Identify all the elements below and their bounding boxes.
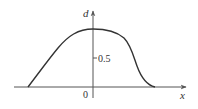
x-axis-label: x [179, 89, 185, 101]
origin-label: 0 [83, 89, 88, 100]
diagram: d x 0 0.5 [0, 0, 198, 109]
y-tick-label-0-5: 0.5 [98, 53, 111, 64]
y-axis-label: d [83, 7, 89, 19]
curve-d [28, 29, 155, 87]
